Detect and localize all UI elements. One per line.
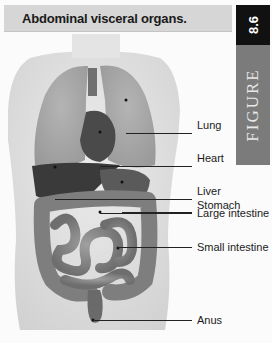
figure-number-badge: 8.6 bbox=[236, 5, 270, 45]
label-heart: Heart bbox=[197, 152, 224, 164]
label-liver: Liver bbox=[197, 185, 221, 197]
label-anus: Anus bbox=[197, 314, 222, 326]
leader-line-small-intestine bbox=[118, 247, 192, 248]
label-large-intestine: Large intestine bbox=[197, 207, 269, 219]
figure-number: 8.6 bbox=[246, 16, 261, 34]
figure-title-bar: Abdominal visceral organs. bbox=[4, 5, 232, 32]
leader-line-heart bbox=[100, 166, 192, 167]
figure-word-banner: FIGURE bbox=[236, 45, 270, 165]
leader-line-lung bbox=[126, 133, 192, 134]
leader-line-anus bbox=[93, 320, 192, 321]
label-lung: Lung bbox=[197, 119, 221, 131]
label-small-intestine: Small intestine bbox=[197, 241, 269, 253]
figure-title: Abdominal visceral organs. bbox=[22, 11, 187, 26]
leader-line-large-intestine bbox=[100, 213, 192, 214]
figure-word: FIGURE bbox=[243, 68, 263, 141]
rectum-shape bbox=[88, 290, 103, 323]
leader-line-liver bbox=[55, 199, 192, 200]
torso-illustration bbox=[0, 34, 190, 339]
